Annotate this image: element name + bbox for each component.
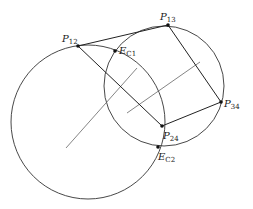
point-ec1 bbox=[113, 49, 117, 53]
diagram-canvas: P12 P13 P34 P24 EC1 EC2 bbox=[0, 0, 253, 209]
circle-c1 bbox=[11, 45, 165, 199]
label-ec2: EC2 bbox=[157, 151, 175, 164]
circle-c2 bbox=[104, 26, 224, 146]
label-p24: P24 bbox=[162, 130, 179, 143]
label-p34: P34 bbox=[223, 98, 240, 111]
link-p24-p12 bbox=[78, 46, 162, 126]
point-ec2 bbox=[156, 145, 160, 149]
link-p12-p13 bbox=[78, 25, 168, 46]
link-p13-p34 bbox=[168, 25, 221, 102]
label-p12: P12 bbox=[61, 33, 78, 46]
linkage-diagram: P12 P13 P34 P24 EC1 EC2 bbox=[0, 0, 253, 209]
point-p34 bbox=[219, 100, 223, 104]
label-ec1: EC1 bbox=[118, 45, 136, 58]
label-p13: P13 bbox=[159, 11, 176, 24]
center-line-1 bbox=[66, 68, 137, 148]
point-p24 bbox=[160, 124, 164, 128]
